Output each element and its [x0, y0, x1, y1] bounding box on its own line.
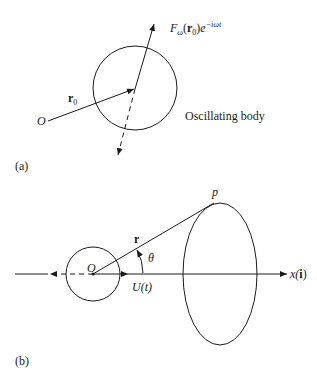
velocity-label: U(t) — [132, 281, 152, 293]
panel-b — [15, 203, 287, 345]
x-axis-paren-close: ) — [303, 267, 307, 281]
force-vector-arrow — [135, 24, 154, 89]
angle-theta-label: θ — [148, 252, 154, 264]
r0-subscript: 0 — [73, 98, 77, 107]
angle-theta-arc — [137, 250, 143, 273]
origin-label-a: O — [37, 115, 46, 127]
panel-a — [48, 24, 177, 155]
exp-power: −iωt — [206, 20, 222, 29]
diagram-canvas — [0, 0, 317, 375]
panel-b-tag: (b) — [15, 355, 29, 367]
panel-a-tag: (a) — [15, 160, 28, 172]
dashed-reaction-arrow — [118, 89, 135, 155]
x-axis-label: x(i) — [290, 268, 307, 280]
radius-vector-label: r — [134, 233, 139, 245]
point-p-label: p — [212, 186, 218, 198]
position-vector-label: r0 — [68, 92, 77, 104]
force-label: Fω(r0)e−iωt — [170, 22, 221, 34]
position-vector-r0 — [48, 89, 134, 121]
x-axis-symbol: x( — [290, 267, 299, 281]
origin-label-b: O — [87, 262, 96, 274]
oscillating-body-label: Oscillating body — [185, 110, 265, 122]
